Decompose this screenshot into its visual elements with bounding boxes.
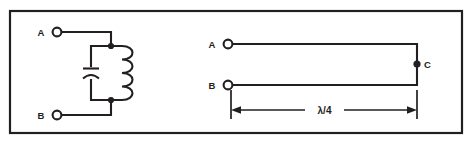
dimension-label: λ/4	[318, 105, 332, 116]
terminal-b-left[interactable]	[53, 111, 62, 120]
terminal-b-right[interactable]	[224, 81, 233, 90]
terminal-a-right[interactable]	[224, 40, 233, 49]
terminal-c-label: C	[424, 59, 431, 70]
figure-container: A B A B C	[0, 0, 473, 146]
junction-dot-bottom	[108, 97, 114, 103]
terminal-c-shorted-end[interactable]	[413, 60, 420, 67]
junction-dot-top	[108, 43, 114, 49]
terminal-b-left-label: B	[38, 110, 45, 121]
circuit-diagram: A B A B C	[0, 0, 473, 146]
terminal-a-left[interactable]	[53, 28, 62, 37]
terminal-a-right-label: A	[209, 39, 216, 50]
terminal-a-left-label: A	[38, 27, 45, 38]
terminal-b-right-label: B	[209, 80, 216, 91]
